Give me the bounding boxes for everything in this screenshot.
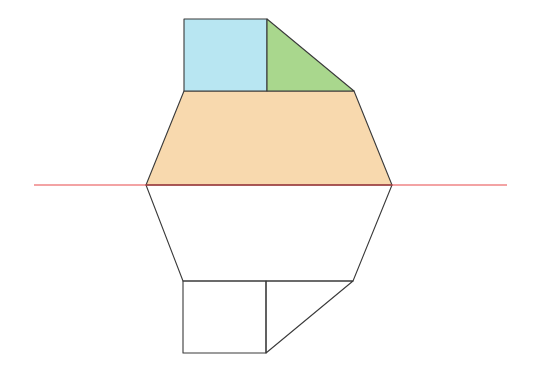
original-triangle: [267, 19, 354, 91]
original-square: [184, 19, 267, 91]
reflected-triangle: [266, 281, 353, 353]
reflection-diagram: [0, 0, 533, 374]
reflected-trapezoid: [146, 185, 392, 281]
reflected-square: [183, 281, 266, 353]
original-trapezoid: [146, 91, 392, 185]
